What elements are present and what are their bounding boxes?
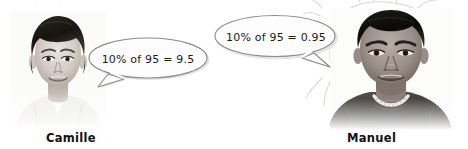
cropped-text-remnant: · · · · · (34, 0, 104, 6)
caption-camille: Camille (46, 131, 96, 145)
photo-manuel (330, 8, 452, 130)
worked-example-illustration: · · · · · (0, 0, 468, 149)
caption-manuel: Manuel (347, 131, 396, 145)
speech-bubble-manuel: 10% of 95 = 0.95 (212, 13, 340, 71)
speech-text-camille: 10% of 95 = 9.5 (86, 53, 210, 66)
speech-text-manuel: 10% of 95 = 0.95 (212, 31, 340, 44)
speech-bubble-camille: 10% of 95 = 9.5 (86, 36, 210, 92)
